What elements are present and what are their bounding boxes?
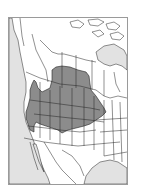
map-svg bbox=[9, 18, 127, 184]
arctic-islands bbox=[70, 19, 124, 40]
range-map bbox=[8, 17, 128, 185]
